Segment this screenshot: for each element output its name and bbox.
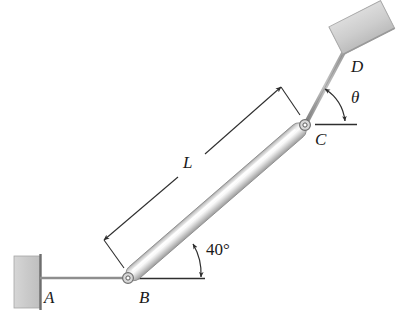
- angle-arc-theta: [325, 89, 345, 121]
- diagram-canvas: L 40° θ A B C D: [0, 0, 404, 320]
- extension-line-b: [104, 240, 124, 268]
- label-point-c: C: [315, 130, 327, 149]
- label-point-b: B: [139, 288, 150, 307]
- pin-c-inner: [303, 123, 307, 127]
- slider-block-d-body: [329, 1, 395, 55]
- pin-joint-b: [123, 273, 134, 284]
- slider-block-d: [329, 1, 395, 55]
- pin-joint-c: [300, 120, 311, 131]
- mechanism-diagram: L 40° θ A B C D: [0, 0, 404, 320]
- dimension-length-l: L: [104, 87, 300, 268]
- pin-b-inner: [126, 276, 130, 280]
- label-angle-theta: θ: [351, 88, 359, 107]
- angle-marker-40: 40°: [193, 240, 230, 277]
- dimension-line-lower: [104, 177, 178, 240]
- angle-arc-40: [193, 244, 201, 277]
- label-angle-40: 40°: [206, 240, 230, 259]
- dimension-line-upper: [205, 87, 281, 154]
- label-length-l: L: [182, 153, 192, 172]
- label-point-a: A: [43, 288, 55, 307]
- angle-marker-theta: θ: [325, 88, 359, 121]
- extension-line-c: [281, 87, 300, 115]
- wall-support-a: [14, 254, 41, 310]
- wall-block-a: [14, 256, 40, 308]
- label-point-d: D: [350, 57, 364, 76]
